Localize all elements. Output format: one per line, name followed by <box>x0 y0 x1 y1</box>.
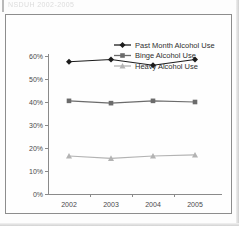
chart-series <box>66 56 198 160</box>
page-right-edge <box>236 0 239 226</box>
header-left-rule <box>2 0 4 12</box>
x-axis-tick-label: 2003 <box>103 201 119 208</box>
x-axis-tick-label: 2005 <box>187 201 203 208</box>
marker-square <box>120 53 125 58</box>
scanned-page: NSDUH 2002-2005 Past Month Alcohol UseBi… <box>0 0 239 226</box>
x-axis-tick-label: 2002 <box>61 201 77 208</box>
legend-item[interactable]: Binge Alcohol Use <box>114 51 196 60</box>
legend-item[interactable]: Past Month Alcohol Use <box>114 41 215 50</box>
chart-canvas: Past Month Alcohol UseBinge Alcohol UseH… <box>6 15 233 215</box>
marker-diamond <box>120 42 126 48</box>
marker-square <box>109 101 114 106</box>
figure-panel: Past Month Alcohol UseBinge Alcohol UseH… <box>5 14 232 214</box>
marker-diamond <box>108 56 114 62</box>
y-axis-tick-label: 20% <box>29 145 43 152</box>
legend-item[interactable]: Heavy Alcohol Use <box>114 62 198 71</box>
y-axis-tick-label: 30% <box>29 122 43 129</box>
marker-square <box>67 99 72 104</box>
chart-axes: 0%10%20%30%40%50%60% <box>29 53 222 198</box>
page-bottom-edge <box>0 223 239 226</box>
series-line <box>69 155 195 158</box>
y-axis-tick-label: 10% <box>29 168 43 175</box>
chart-x-tick-labels: 2002200320042005 <box>61 201 203 208</box>
series-binge-alcohol-use <box>67 99 198 106</box>
y-axis-tick-label: 50% <box>29 76 43 83</box>
series-heavy-alcohol-use <box>66 152 198 161</box>
x-axis-title: Year <box>124 213 140 215</box>
legend-item-label: Binge Alcohol Use <box>135 51 196 60</box>
page-header-strip: NSDUH 2002-2005 <box>0 0 239 12</box>
header-ghost-text: NSDUH 2002-2005 <box>8 1 74 9</box>
x-axis-tick-label: 2004 <box>145 201 161 208</box>
marker-square <box>151 99 156 104</box>
y-axis-tick-label: 0% <box>33 191 43 198</box>
marker-square <box>193 100 198 105</box>
series-line <box>69 101 195 103</box>
y-axis-tick-label: 40% <box>29 99 43 106</box>
chart-legend: Past Month Alcohol UseBinge Alcohol UseH… <box>114 41 215 71</box>
marker-diamond <box>66 59 72 65</box>
line-chart: Past Month Alcohol UseBinge Alcohol UseH… <box>6 15 233 215</box>
y-axis-tick-label: 60% <box>29 53 43 60</box>
legend-item-label: Past Month Alcohol Use <box>135 41 215 50</box>
